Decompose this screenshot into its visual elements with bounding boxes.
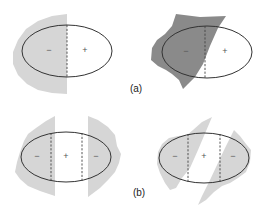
plus-sign: +	[222, 46, 227, 56]
minus-sign: −	[172, 151, 177, 161]
minus-sign: −	[230, 151, 235, 161]
plus-sign: +	[63, 151, 68, 161]
panel-a-left: − +	[13, 14, 112, 94]
panel-a-right: − +	[151, 14, 252, 89]
part-label-b: (b)	[133, 187, 145, 198]
shaded-region-right	[198, 130, 251, 205]
part-label-a: (a)	[130, 83, 142, 94]
plus-sign: +	[82, 45, 87, 55]
minus-sign: −	[46, 45, 51, 55]
panel-b-left: − + −	[15, 116, 121, 197]
shaded-region	[13, 14, 67, 94]
minus-sign: −	[34, 151, 39, 161]
plus-sign: +	[201, 151, 206, 161]
panel-b-right: − + −	[157, 117, 251, 205]
minus-sign: −	[93, 151, 98, 161]
minus-sign: −	[183, 46, 188, 56]
figure-canvas: − + − + (a) − + − − + − (b)	[0, 0, 266, 213]
